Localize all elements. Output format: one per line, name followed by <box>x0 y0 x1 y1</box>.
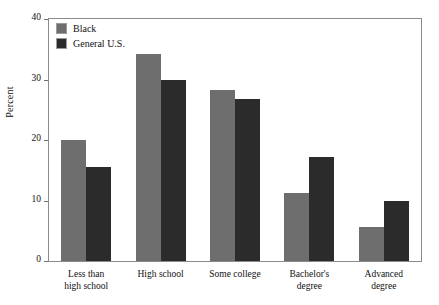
bar-group <box>359 19 409 261</box>
bar <box>136 54 161 261</box>
y-axis-label: Percent <box>4 72 15 132</box>
bars-layer <box>49 19 421 261</box>
bar <box>210 90 235 261</box>
x-axis-category-label-line: high school <box>36 280 136 292</box>
y-axis-tick: 10 <box>0 201 48 202</box>
x-axis-category-label: Advanceddegree <box>334 268 434 292</box>
bar <box>359 227 384 261</box>
legend-item-general-us: General U.S. <box>56 36 125 50</box>
bar <box>384 201 409 262</box>
y-axis-tick-label: 30 <box>32 73 42 83</box>
bar-group <box>210 19 260 261</box>
bar <box>61 140 86 261</box>
bar-chart-figure: Percent 010203040 Less thanhigh schoolHi… <box>0 0 439 305</box>
y-axis-tick-label: 20 <box>32 133 42 143</box>
legend-swatch-icon-black <box>56 23 67 34</box>
y-axis-tick-label: 0 <box>36 254 41 264</box>
x-axis-category-label-line: degree <box>334 280 434 292</box>
bar <box>235 99 260 261</box>
bar <box>284 193 309 261</box>
legend-label-general-us: General U.S. <box>73 38 125 49</box>
legend-label-black: Black <box>73 23 96 34</box>
y-axis-tick: 20 <box>0 140 48 141</box>
y-axis-tick-label: 40 <box>32 12 42 22</box>
bar-group <box>136 19 186 261</box>
bar-group <box>284 19 334 261</box>
bar-group <box>61 19 111 261</box>
legend-swatch-icon-general-us <box>56 38 67 49</box>
y-axis-tick: 40 <box>0 19 48 20</box>
y-axis-tick-label: 10 <box>32 194 42 204</box>
y-axis-tick: 30 <box>0 80 48 81</box>
legend-item-black: Black <box>56 21 125 35</box>
chart-legend: Black General U.S. <box>56 21 125 51</box>
bar <box>309 157 334 261</box>
y-axis-tick: 0 <box>0 261 48 262</box>
bar <box>161 80 186 262</box>
bar <box>86 167 111 261</box>
x-axis-category-label-line: Advanced <box>334 268 434 280</box>
